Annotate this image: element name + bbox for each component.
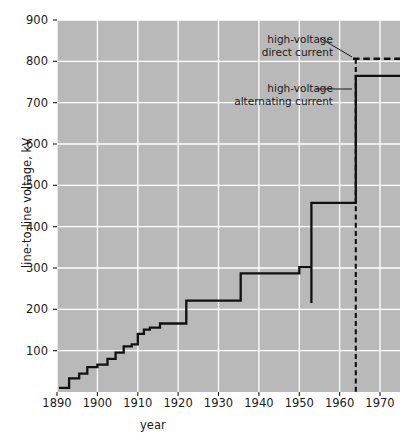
annotation-hvac-line1: high-voltage	[168, 82, 333, 95]
x-tick-1890: 1890	[42, 396, 71, 410]
chart-canvas	[0, 0, 412, 442]
annotation-hvdc: high-voltage direct current	[188, 33, 333, 59]
x-tick-1960: 1960	[325, 396, 354, 410]
x-tick-1970: 1970	[365, 396, 394, 410]
x-tick-1910: 1910	[123, 396, 152, 410]
annotation-hvac: high-voltage alternating current	[168, 82, 333, 108]
annotation-hvac-line2: alternating current	[168, 95, 333, 108]
gridlines-vertical	[57, 20, 380, 392]
y-tick-700: 700	[26, 96, 48, 110]
annotation-hvdc-line2: direct current	[188, 46, 333, 59]
x-axis-label: year	[140, 418, 166, 432]
x-tick-1950: 1950	[285, 396, 314, 410]
x-tick-1930: 1930	[204, 396, 233, 410]
annotation-hvdc-line1: high-voltage	[188, 33, 333, 46]
x-tick-1900: 1900	[83, 396, 112, 410]
x-tick-1920: 1920	[163, 396, 192, 410]
y-tick-200: 200	[26, 302, 48, 316]
x-tick-1940: 1940	[244, 396, 273, 410]
y-axis-label: line-to-line voltage, kV	[20, 138, 34, 268]
series-hvac-step-line	[59, 76, 400, 388]
y-tick-900: 900	[26, 13, 48, 27]
y-tick-800: 800	[26, 54, 48, 68]
chart-figure: 900 800 700 600 500 400 300 200 100 1890…	[0, 0, 412, 442]
y-tick-100: 100	[26, 344, 48, 358]
